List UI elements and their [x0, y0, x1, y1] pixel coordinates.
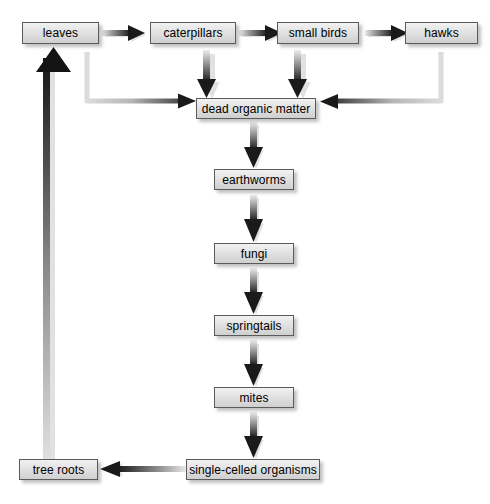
node-label: small birds	[289, 27, 347, 39]
node-single-celled-organisms[interactable]: single-celled organisms	[186, 459, 320, 480]
node-springtails[interactable]: springtails	[214, 315, 294, 336]
node-label: tree roots	[33, 464, 85, 476]
edge-small-birds-to-hawks	[365, 25, 408, 41]
node-label: hawks	[424, 27, 459, 39]
node-mites[interactable]: mites	[214, 387, 294, 408]
edge-leaves-to-caterpillars	[102, 25, 145, 41]
node-label: dead organic matter	[202, 103, 311, 115]
edge-mites-to-single-celled-organisms	[244, 412, 263, 458]
node-tree-roots[interactable]: tree roots	[19, 459, 98, 480]
edge-fungi-to-springtails	[244, 268, 263, 314]
node-small-birds[interactable]: small birds	[277, 22, 359, 44]
node-caterpillars[interactable]: caterpillars	[150, 22, 236, 44]
edge-springtails-to-mites	[244, 340, 263, 386]
edge-earthworms-to-fungi	[244, 195, 263, 242]
food-web-diagram: leaves caterpillars small birds hawks de…	[0, 0, 490, 504]
edge-dead-organic-matter-to-earthworms	[244, 122, 263, 168]
edge-single-celled-organisms-to-tree-roots	[100, 461, 186, 477]
node-earthworms[interactable]: earthworms	[214, 169, 294, 190]
node-label: single-celled organisms	[189, 464, 317, 476]
node-label: caterpillars	[163, 27, 222, 39]
edge-leaves-to-dead-organic-matter	[87, 52, 196, 109]
node-dead-organic-matter[interactable]: dead organic matter	[196, 98, 316, 119]
edge-caterpillars-to-small-birds	[239, 25, 282, 41]
node-leaves[interactable]: leaves	[22, 22, 99, 44]
node-label: earthworms	[222, 174, 286, 186]
node-label: mites	[239, 392, 268, 404]
edge-hawks-to-dead-organic-matter	[320, 52, 441, 109]
node-label: fungi	[241, 248, 268, 260]
node-label: springtails	[226, 320, 281, 332]
node-hawks[interactable]: hawks	[405, 22, 478, 44]
node-label: leaves	[43, 27, 78, 39]
node-fungi[interactable]: fungi	[214, 243, 294, 264]
